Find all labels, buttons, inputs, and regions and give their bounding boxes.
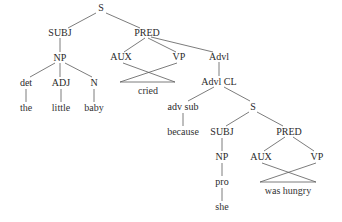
node-adj: ADJ — [52, 78, 70, 88]
leaf-she: she — [215, 202, 228, 212]
edge-s-pred — [106, 13, 140, 28]
node-det: det — [20, 78, 32, 88]
node-np-embedded: NP — [216, 152, 229, 162]
leaf-was-hungry: was hungry — [265, 186, 311, 196]
node-vp: VP — [173, 52, 186, 62]
edge-advlcl-advsub — [188, 87, 214, 101]
leaf-little: little — [52, 103, 70, 113]
node-advl: Advl — [209, 52, 229, 62]
edge-pred2-aux2 — [264, 137, 285, 151]
node-subj-embedded: SUBJ — [210, 127, 233, 137]
leaf-the: the — [20, 103, 32, 113]
node-pred-embedded: PRED — [276, 127, 302, 137]
leaf-cried: cried — [138, 86, 158, 96]
node-vp-embedded: VP — [311, 152, 324, 162]
edge-s-subj — [68, 13, 96, 28]
leaf-baby: baby — [84, 103, 103, 113]
node-aux: AUX — [110, 52, 132, 62]
edge-pred-vp — [148, 38, 176, 52]
edge-s2-pred2 — [257, 112, 283, 126]
node-adv-sub: adv sub — [168, 102, 199, 112]
node-n: N — [90, 78, 97, 88]
edge-s2-subj2 — [226, 112, 249, 126]
edge-np-det — [30, 63, 55, 77]
edge-vp-triangle — [120, 63, 177, 82]
node-subj: SUBJ — [48, 28, 71, 38]
node-pred: PRED — [134, 28, 160, 38]
node-aux-embedded: AUX — [250, 152, 272, 162]
edge-advlcl-s — [224, 87, 250, 101]
node-pro: pro — [215, 177, 228, 187]
node-s-embedded: S — [250, 102, 256, 112]
leaf-because: because — [167, 127, 199, 137]
edge-pred-aux — [124, 38, 145, 52]
node-np: NP — [54, 53, 67, 63]
edge-pred2-vp2 — [293, 137, 314, 151]
edge-np-n — [65, 63, 92, 77]
node-advl-cl: Advl CL — [201, 77, 236, 87]
node-s-root: S — [98, 3, 104, 13]
